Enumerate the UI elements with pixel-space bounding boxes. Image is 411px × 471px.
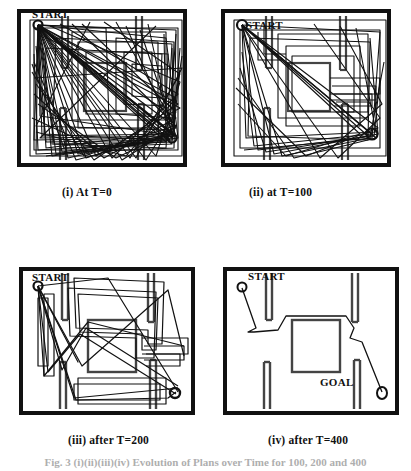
start-label: START xyxy=(248,270,285,282)
caption-panel-t100: (ii) at T=100 xyxy=(249,186,312,198)
panel-t0-canvas: START xyxy=(16,8,188,168)
goal-label: GOAL xyxy=(320,376,354,388)
caption-panel-t200: (iii) after T=200 xyxy=(68,434,149,446)
start-label: START xyxy=(32,8,69,20)
panel-t100: START xyxy=(220,8,392,168)
panel-border xyxy=(225,269,397,413)
start-label: START xyxy=(246,19,283,31)
caption-panel-t400: (iv) after T=400 xyxy=(268,434,348,446)
figure-caption: Fig. 3 (i)(ii)(iii)(iv) Evolution of Pla… xyxy=(0,456,411,471)
start-label: START xyxy=(32,271,69,283)
figure-container: START xyxy=(0,0,411,471)
caption-panel-t0: (i) At T=0 xyxy=(62,186,112,198)
panel-t400-canvas: START GOAL xyxy=(222,266,400,416)
panel-t200-canvas: START xyxy=(18,266,196,416)
panel-t100-canvas: START xyxy=(220,8,392,168)
panel-t200: START xyxy=(18,266,196,416)
panel-t0: START xyxy=(16,8,188,168)
panel-t400: START GOAL xyxy=(222,266,400,416)
